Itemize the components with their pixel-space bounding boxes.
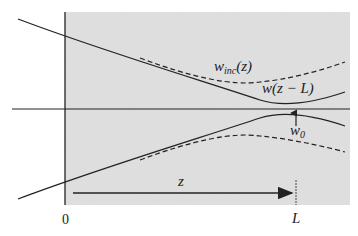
label-w-inc: winc(z) (214, 58, 252, 76)
diagram-canvas (0, 0, 358, 236)
label-L: L (292, 210, 300, 227)
label-z: z (178, 173, 184, 190)
label-w0: w0 (290, 122, 305, 140)
label-w-focus: w(z − L) (262, 80, 314, 97)
label-origin: 0 (62, 212, 69, 228)
